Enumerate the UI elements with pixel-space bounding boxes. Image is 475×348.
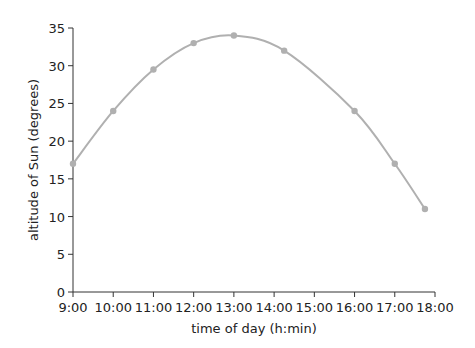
y-tick-label: 0 (57, 285, 65, 300)
y-tick-label: 25 (48, 96, 65, 111)
y-tick-label: 20 (48, 134, 65, 149)
x-tick-label: 18:00 (416, 300, 453, 315)
y-tick-label: 15 (48, 172, 65, 187)
x-tick-label: 12:00 (175, 300, 212, 315)
data-series-altitude (70, 32, 428, 212)
y-tick-label: 30 (48, 59, 65, 74)
x-tick-label: 17:00 (376, 300, 413, 315)
altitude-curve (73, 35, 425, 209)
data-point (392, 161, 398, 167)
x-tick-label: 16:00 (336, 300, 373, 315)
x-tick-label: 15:00 (296, 300, 333, 315)
x-axis-title: time of day (h:min) (191, 321, 317, 336)
x-tick-label: 9:00 (58, 300, 87, 315)
data-point (190, 40, 196, 46)
data-point (70, 161, 76, 167)
axes: 051015202530359:0010:0011:0012:0013:0014… (48, 21, 453, 315)
data-point (422, 206, 428, 212)
y-tick-label: 5 (57, 247, 65, 262)
data-point (150, 66, 156, 72)
data-point (110, 108, 116, 114)
data-point (231, 32, 237, 38)
chart: 051015202530359:0010:0011:0012:0013:0014… (0, 0, 475, 348)
y-tick-label: 35 (48, 21, 65, 36)
data-point (281, 47, 287, 53)
y-tick-label: 10 (48, 210, 65, 225)
x-tick-label: 10:00 (94, 300, 131, 315)
x-tick-label: 14:00 (255, 300, 292, 315)
x-tick-label: 11:00 (135, 300, 172, 315)
x-tick-label: 13:00 (215, 300, 252, 315)
y-axis-title: altitude of Sun (degrees) (26, 79, 41, 241)
data-point (351, 108, 357, 114)
